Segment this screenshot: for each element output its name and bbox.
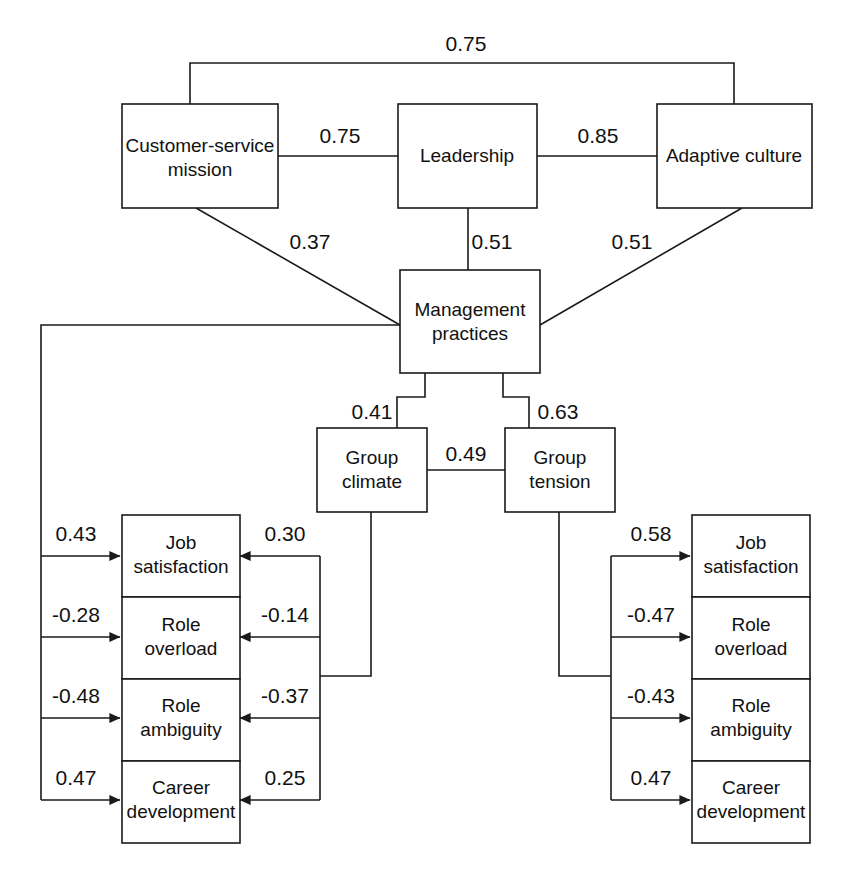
- coef-climate-role-overload: -0.14: [261, 603, 309, 626]
- node-label-line1: Adaptive culture: [666, 145, 802, 166]
- path-diagram: Customer-service mission Leadership Adap…: [0, 0, 850, 889]
- nodes-layer: Customer-service mission Leadership Adap…: [122, 104, 812, 843]
- outcome-label-line2: satisfaction: [133, 556, 228, 577]
- edge-culture-management: [540, 208, 742, 325]
- node-customer-service-mission[interactable]: Customer-service mission: [122, 104, 278, 208]
- outcome-left-role-overload[interactable]: Role overload: [122, 597, 240, 679]
- outcome-left-job-satisfaction[interactable]: Job satisfaction: [122, 515, 240, 597]
- node-adaptive-culture[interactable]: Adaptive culture: [657, 104, 812, 208]
- edge-mission-culture: [190, 63, 734, 104]
- coef-leadership-culture: 0.85: [578, 124, 619, 147]
- coef-mission-culture: 0.75: [446, 32, 487, 55]
- outcome-label-line1: Role: [161, 695, 200, 716]
- coef-climate-career-development: 0.25: [265, 766, 306, 789]
- node-label-line1: Management: [415, 299, 527, 320]
- outcome-label-line1: Job: [736, 532, 767, 553]
- outcome-right-career-development[interactable]: Career development: [692, 761, 810, 843]
- coef-management-career-development: 0.47: [56, 766, 97, 789]
- node-label-line2: tension: [529, 471, 590, 492]
- node-box[interactable]: [317, 428, 427, 512]
- coef-tension-role-ambiguity: -0.43: [627, 684, 675, 707]
- node-label-line2: practices: [432, 323, 508, 344]
- node-label-line1: Customer-service: [126, 135, 275, 156]
- coef-climate-job-satisfaction: 0.30: [265, 522, 306, 545]
- outcome-label-line2: satisfaction: [703, 556, 798, 577]
- node-group-climate[interactable]: Group climate: [317, 428, 427, 512]
- outcome-right-role-ambiguity[interactable]: Role ambiguity: [692, 679, 810, 761]
- coef-mission-leadership: 0.75: [320, 124, 361, 147]
- coef-climate-role-ambiguity: -0.37: [261, 684, 309, 707]
- outcome-left-career-development[interactable]: Career development: [122, 761, 240, 843]
- outcome-label-line1: Role: [161, 614, 200, 635]
- outcome-label-line1: Career: [152, 777, 211, 798]
- node-leadership[interactable]: Leadership: [398, 104, 537, 208]
- coef-leadership-management: 0.51: [472, 230, 513, 253]
- outcome-right-job-satisfaction[interactable]: Job satisfaction: [692, 515, 810, 597]
- outcome-label-line2: development: [697, 801, 807, 822]
- edge-tension-right-trunk: [559, 512, 611, 676]
- coef-climate-tension: 0.49: [446, 442, 487, 465]
- outcome-label-line2: overload: [145, 638, 218, 659]
- coef-tension-career-development: 0.47: [631, 766, 672, 789]
- coef-management-group-tension: 0.63: [538, 400, 579, 423]
- coef-management-group-climate: 0.41: [352, 400, 393, 423]
- node-label-line1: Group: [534, 447, 587, 468]
- coef-management-job-satisfaction: 0.43: [56, 522, 97, 545]
- coef-culture-management: 0.51: [612, 230, 653, 253]
- coef-tension-role-overload: -0.47: [627, 603, 675, 626]
- outcome-stack-right: Job satisfaction Role overload Role ambi…: [692, 515, 810, 843]
- outcome-label-line1: Role: [731, 695, 770, 716]
- outcome-stack-left: Job satisfaction Role overload Role ambi…: [122, 515, 240, 843]
- node-box[interactable]: [400, 270, 540, 373]
- node-box[interactable]: [505, 428, 615, 512]
- outcome-label-line1: Career: [722, 777, 781, 798]
- edge-management-group-climate: [397, 373, 425, 428]
- edge-climate-middle-trunk: [320, 512, 371, 676]
- edge-mission-management: [196, 208, 400, 325]
- node-label-line1: Group: [346, 447, 399, 468]
- node-label-line2: mission: [168, 159, 232, 180]
- coef-mission-management: 0.37: [290, 230, 331, 253]
- coef-management-role-overload: -0.28: [52, 603, 100, 626]
- outcome-right-role-overload[interactable]: Role overload: [692, 597, 810, 679]
- node-group-tension[interactable]: Group tension: [505, 428, 615, 512]
- outcome-label-line2: development: [127, 801, 237, 822]
- outcome-label-line2: overload: [715, 638, 788, 659]
- node-label-line1: Leadership: [420, 145, 514, 166]
- outcome-left-role-ambiguity[interactable]: Role ambiguity: [122, 679, 240, 761]
- outcome-label-line2: ambiguity: [140, 719, 222, 740]
- outcome-label-line1: Role: [731, 614, 770, 635]
- coef-management-role-ambiguity: -0.48: [52, 684, 100, 707]
- edge-management-group-tension: [503, 373, 529, 428]
- node-label-line2: climate: [342, 471, 402, 492]
- coef-tension-job-satisfaction: 0.58: [631, 522, 672, 545]
- outcome-label-line2: ambiguity: [710, 719, 792, 740]
- outcome-label-line1: Job: [166, 532, 197, 553]
- node-management-practices[interactable]: Management practices: [400, 270, 540, 373]
